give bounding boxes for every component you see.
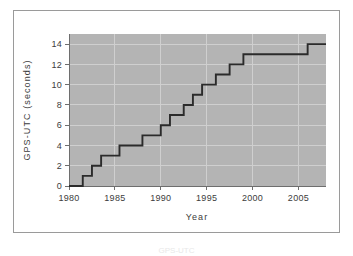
x-tick-label: 1995 [196, 193, 217, 203]
y-tick-label: 6 [57, 120, 62, 130]
x-tick-label: 1990 [150, 193, 171, 203]
x-tick-label: 1985 [104, 193, 125, 203]
plot-area-background [69, 34, 326, 186]
y-tick-label: 12 [51, 60, 62, 70]
x-axis-ticks: 198019851990199520002005 [58, 186, 309, 203]
y-tick-label: 4 [57, 141, 62, 151]
x-tick-label: 2000 [242, 193, 263, 203]
y-tick-label: 2 [57, 161, 62, 171]
y-axis-ticks: 02468101214 [51, 39, 69, 191]
y-tick-label: 8 [57, 100, 62, 110]
x-tick-label: 1980 [58, 193, 79, 203]
y-tick-label: 0 [57, 181, 62, 191]
y-tick-label: 14 [51, 39, 62, 49]
x-tick-label: 2005 [288, 193, 309, 203]
gps-utc-step-chart: 02468101214 198019851990199520002005 Yea… [14, 11, 341, 234]
figure-frame: 02468101214 198019851990199520002005 Yea… [13, 10, 340, 233]
caption-partial-text: GPS-UTC [0, 246, 353, 255]
y-axis-title: GPS-UTC (seconds) [22, 59, 32, 160]
x-axis-title: Year [186, 212, 209, 222]
y-tick-label: 10 [51, 80, 62, 90]
caption-sliver: GPS-UTC [0, 246, 353, 256]
